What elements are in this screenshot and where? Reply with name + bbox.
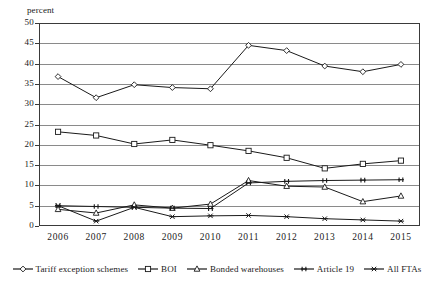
data-point-diamond	[284, 48, 290, 54]
legend-item[interactable]: Article 19	[293, 263, 354, 275]
data-point-star	[398, 219, 404, 223]
data-point-cross-bar	[322, 178, 328, 183]
legend-label: Tariff exception schemes	[36, 264, 129, 274]
data-point-square	[246, 148, 251, 153]
data-point-square	[132, 141, 137, 146]
data-point-square	[360, 161, 365, 166]
data-point-square	[146, 266, 151, 271]
data-point-square	[170, 137, 175, 142]
data-point-cross-bar	[301, 267, 307, 272]
legend-item[interactable]: Bonded warehouses	[186, 263, 284, 275]
data-point-star	[245, 213, 251, 217]
data-point-star	[322, 216, 328, 220]
data-point-triangle	[398, 193, 404, 198]
data-point-diamond	[131, 82, 137, 88]
data-point-diamond	[398, 62, 404, 68]
legend-label: Bonded warehouses	[210, 264, 284, 274]
data-point-cross-bar	[207, 206, 213, 211]
legend-marker-square-icon	[137, 263, 159, 275]
legend-item[interactable]: All FTAs	[363, 263, 421, 275]
line-chart: percent 05101520253035404550 20062007200…	[0, 0, 433, 289]
legend-marker-cross-bar-icon	[293, 263, 315, 275]
data-point-diamond	[169, 85, 175, 91]
data-point-star	[207, 214, 213, 218]
legend-item[interactable]: Tariff exception schemes	[12, 263, 129, 275]
data-point-diamond	[322, 63, 328, 69]
data-point-diamond	[55, 74, 61, 80]
chart-legend: Tariff exception schemesBOIBonded wareho…	[0, 258, 433, 280]
data-point-cross-bar	[93, 204, 99, 209]
data-point-diamond	[360, 69, 366, 75]
data-point-star	[371, 267, 377, 271]
legend-marker-star-icon	[363, 263, 385, 275]
data-point-square	[322, 166, 327, 171]
data-point-square	[94, 133, 99, 138]
data-point-square	[208, 143, 213, 148]
series-2	[55, 129, 403, 171]
data-point-cross-bar	[398, 177, 404, 182]
series-layer	[0, 0, 433, 289]
data-point-triangle	[208, 201, 214, 206]
legend-marker-diamond-icon	[12, 263, 34, 275]
legend-item[interactable]: BOI	[137, 263, 177, 275]
data-point-star	[360, 218, 366, 222]
data-point-star	[93, 219, 99, 223]
data-point-square	[284, 155, 289, 160]
series-4	[55, 177, 404, 211]
data-point-diamond	[93, 95, 99, 101]
legend-label: BOI	[161, 264, 177, 274]
data-point-diamond	[20, 266, 26, 272]
data-point-square	[55, 129, 60, 134]
legend-label: Article 19	[317, 264, 354, 274]
series-1	[55, 42, 404, 100]
data-point-cross-bar	[360, 178, 366, 183]
data-point-star	[169, 214, 175, 218]
legend-label: All FTAs	[387, 264, 421, 274]
data-point-star	[284, 214, 290, 218]
legend-marker-triangle-icon	[186, 263, 208, 275]
data-point-square	[398, 158, 403, 163]
